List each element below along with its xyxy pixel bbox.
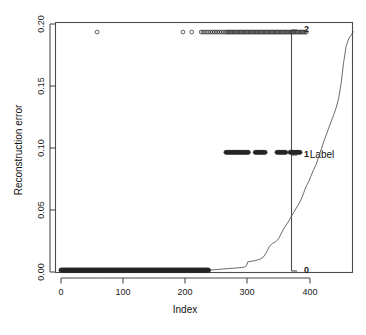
y-ticklabel-0.05: 0.05 xyxy=(36,201,46,219)
label-axis-tick-1: 1 xyxy=(304,149,309,159)
y-ticklabel-0.20: 0.20 xyxy=(36,15,46,33)
x-ticklabel-300: 300 xyxy=(239,287,254,297)
y-ticklabel-0.10: 0.10 xyxy=(36,139,46,157)
y-axis xyxy=(50,24,56,272)
data-point xyxy=(206,268,210,272)
data-point xyxy=(263,150,267,154)
data-point xyxy=(246,150,250,154)
reconstruction-error-scatter-chart: 0.20 0.15 0.10 0.05 0.00 Reconstruction … xyxy=(0,0,366,335)
x-axis-title: Index xyxy=(173,304,197,315)
plot-frame xyxy=(56,23,353,273)
y-ticklabel-0.00: 0.00 xyxy=(36,263,46,281)
x-ticklabel-0: 0 xyxy=(58,287,63,297)
y-axis-title: Reconstruction error xyxy=(13,104,24,195)
series-label-2-points xyxy=(95,30,308,34)
data-point xyxy=(298,150,302,154)
series-label-0-points xyxy=(59,268,211,272)
scatter-points-layer xyxy=(59,30,308,272)
data-point xyxy=(95,30,99,34)
series-label-1-points xyxy=(224,150,302,154)
x-ticklabel-100: 100 xyxy=(115,287,130,297)
y-ticklabel-0.15: 0.15 xyxy=(36,77,46,95)
label-axis-tick-0: 0 xyxy=(304,265,309,275)
x-ticklabel-400: 400 xyxy=(302,287,317,297)
data-point xyxy=(181,30,185,34)
x-ticklabel-200: 200 xyxy=(177,287,192,297)
chart-screenshot: 0.20 0.15 0.10 0.05 0.00 Reconstruction … xyxy=(0,0,366,335)
data-point xyxy=(190,30,194,34)
data-point xyxy=(284,150,288,154)
x-axis xyxy=(61,278,310,284)
label-axis-title: Label xyxy=(310,149,334,160)
